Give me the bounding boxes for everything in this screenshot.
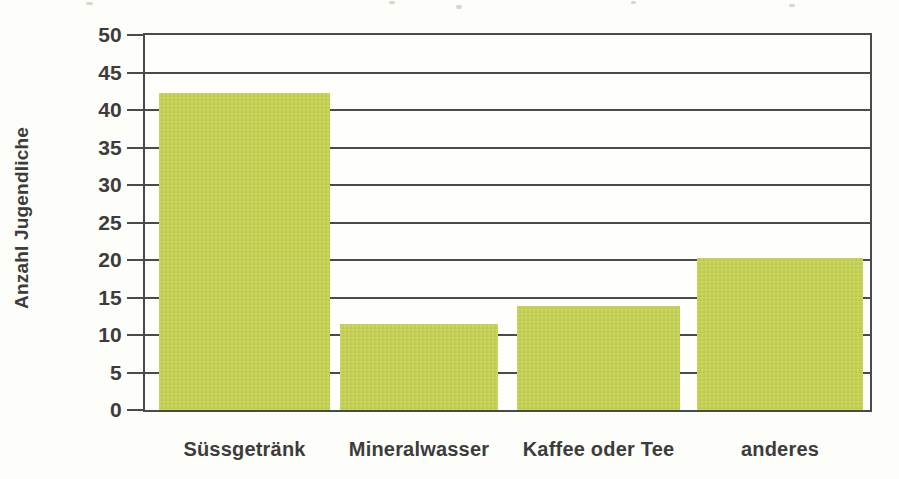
plot-area (143, 33, 872, 412)
bar-mineralwasser (340, 324, 498, 410)
bar-chart: Anzahl Jugendliche 05101520253035404550S… (0, 0, 899, 479)
gridline-y-45 (145, 72, 870, 74)
y-tick-label-25: 25 (62, 210, 122, 234)
y-tick-label-20: 20 (62, 248, 122, 272)
x-tick-label-anderes: anderes (741, 438, 819, 461)
y-tick-mark-10 (127, 334, 145, 336)
y-tick-mark-0 (127, 409, 145, 411)
bar-anderes (697, 258, 863, 410)
x-tick-label-suessgetraenk: Süssgetränk (183, 438, 305, 461)
y-tick-mark-40 (127, 109, 145, 111)
bar-suessgetraenk (159, 93, 330, 410)
y-tick-label-50: 50 (62, 23, 122, 47)
y-tick-mark-5 (127, 372, 145, 374)
y-tick-label-35: 35 (62, 135, 122, 159)
scan-speck (789, 4, 795, 7)
y-tick-mark-25 (127, 222, 145, 224)
y-tick-label-45: 45 (62, 60, 122, 84)
y-tick-mark-15 (127, 297, 145, 299)
y-tick-label-5: 5 (62, 360, 122, 384)
x-tick-label-kaffee-oder-tee: Kaffee oder Tee (523, 438, 675, 461)
y-tick-label-10: 10 (62, 323, 122, 347)
y-tick-mark-20 (127, 259, 145, 261)
scan-speck (86, 2, 93, 5)
y-tick-mark-35 (127, 147, 145, 149)
y-axis-title: Anzahl Jugendliche (11, 127, 33, 309)
scan-speck (456, 5, 462, 9)
x-tick-label-mineralwasser: Mineralwasser (349, 438, 489, 461)
scan-speck (631, 1, 636, 4)
bar-kaffee-oder-tee (517, 306, 680, 410)
y-tick-mark-50 (127, 34, 145, 36)
y-tick-mark-45 (127, 72, 145, 74)
y-tick-mark-30 (127, 184, 145, 186)
y-tick-label-30: 30 (62, 173, 122, 197)
y-tick-label-15: 15 (62, 285, 122, 309)
y-tick-label-40: 40 (62, 98, 122, 122)
y-tick-label-0: 0 (62, 398, 122, 422)
scan-speck (389, 1, 395, 4)
